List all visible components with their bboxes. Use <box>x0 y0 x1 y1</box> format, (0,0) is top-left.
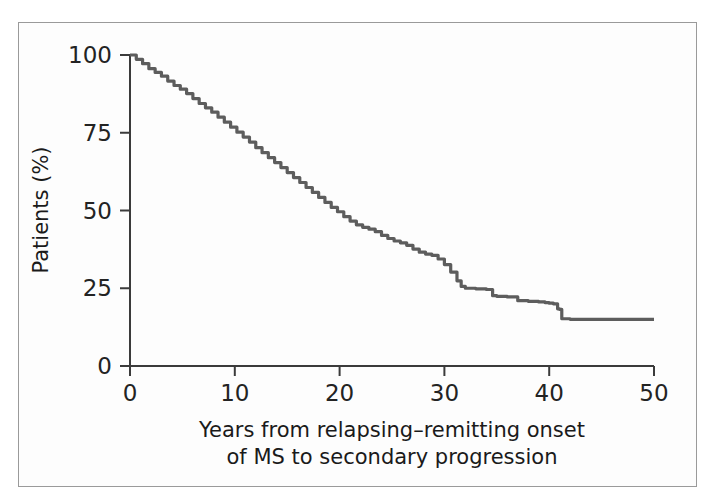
y-tick-label: 25 <box>83 275 112 301</box>
x-tick-label: 10 <box>220 380 249 406</box>
survival-curve-line <box>130 55 654 319</box>
x-tick-label: 50 <box>639 380 668 406</box>
x-axis-title-line1: Years from relapsing–remitting onset <box>198 418 585 442</box>
y-tick-label: 0 <box>97 353 112 379</box>
y-tick-label: 50 <box>83 198 112 224</box>
x-axis-title-line2: of MS to secondary progression <box>227 445 558 469</box>
x-tick-label: 30 <box>430 380 459 406</box>
y-axis-ticks: 0255075100 <box>68 42 130 379</box>
y-tick-label: 100 <box>68 42 112 68</box>
x-tick-label: 0 <box>123 380 138 406</box>
figure-root: 0255075100 01020304050 Patients (%) Year… <box>0 0 714 502</box>
y-tick-label: 75 <box>83 120 112 146</box>
x-tick-label: 40 <box>535 380 564 406</box>
y-axis-title: Patients (%) <box>29 146 53 273</box>
x-tick-label: 20 <box>325 380 354 406</box>
x-axis-ticks: 01020304050 <box>123 366 669 406</box>
survival-curve-chart: 0255075100 01020304050 Patients (%) Year… <box>0 0 714 502</box>
